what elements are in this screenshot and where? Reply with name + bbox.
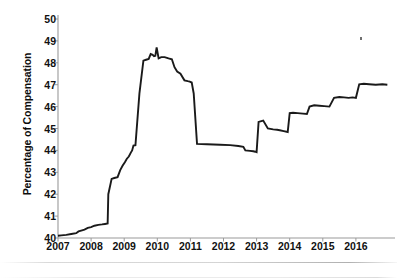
data-series-line-0 xyxy=(58,47,387,235)
y-tick-label: 42 xyxy=(34,188,56,200)
x-tick-label: 2012 xyxy=(212,240,235,252)
x-tick-label: 2010 xyxy=(146,240,169,252)
y-tick-label: 47 xyxy=(34,79,56,91)
y-tick-label: 41 xyxy=(34,210,56,222)
scan-line-artifact xyxy=(0,262,397,263)
x-tick-label: 2015 xyxy=(311,240,334,252)
y-tick-label: 48 xyxy=(34,57,56,69)
x-tick-label: 2011 xyxy=(179,240,202,252)
x-axis-tick-labels: 2007200820092010201120122013201420152016 xyxy=(0,240,397,256)
y-axis-tick-labels: 4041424344454647484950 xyxy=(30,0,56,279)
x-tick-label: 2007 xyxy=(46,240,69,252)
y-tick-label: 45 xyxy=(34,123,56,135)
y-tick-label: 49 xyxy=(34,35,56,47)
x-tick-label: 2014 xyxy=(278,240,301,252)
data-series-group xyxy=(58,47,387,235)
scan-speck-artifact xyxy=(360,37,362,40)
x-tick-label: 2008 xyxy=(79,240,102,252)
y-tick-label: 46 xyxy=(34,101,56,113)
plot-area xyxy=(0,0,397,279)
chart-figure: Percentage of Compensation 4041424344454… xyxy=(0,0,397,279)
scan-line-artifact-lower xyxy=(0,277,397,278)
x-tick-label: 2009 xyxy=(113,240,136,252)
y-tick-label: 44 xyxy=(34,144,56,156)
x-tick-label: 2013 xyxy=(245,240,268,252)
y-tick-label: 50 xyxy=(34,13,56,25)
x-tick-label: 2016 xyxy=(344,240,367,252)
y-tick-label: 43 xyxy=(34,166,56,178)
axis-ticks xyxy=(55,19,356,242)
